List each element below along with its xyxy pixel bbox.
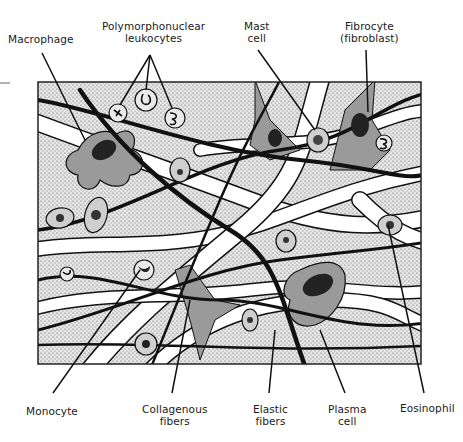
label-mast-cell: Mast cell xyxy=(244,20,269,44)
label-macrophage: Macrophage xyxy=(8,33,74,45)
fibrocyte-nucleus xyxy=(351,113,369,137)
label-plasma-cell: Plasma cell xyxy=(328,403,366,427)
label-fibrocyte: Fibrocyte (fibroblast) xyxy=(340,20,399,44)
label-collagenous-fibers: Collagenous fibers xyxy=(142,403,207,427)
label-elastic-fibers: Elastic fibers xyxy=(253,403,288,427)
mast-cell xyxy=(307,128,329,152)
label-polymorphonuclear-leukocytes: Polymorphonuclear leukocytes xyxy=(102,20,205,44)
tissue-diagram xyxy=(0,0,463,442)
label-monocyte: Monocyte xyxy=(26,405,78,417)
label-eosinophil: Eosinophil xyxy=(400,402,455,414)
